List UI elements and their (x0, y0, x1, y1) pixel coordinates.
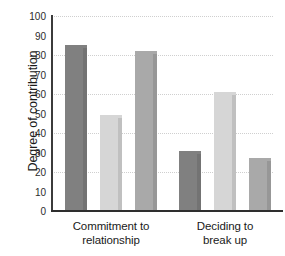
bar (214, 92, 236, 211)
bar (100, 115, 122, 211)
bar-shadow-edge (232, 95, 236, 211)
y-tick-label: 60 (16, 89, 46, 100)
bar-shadow-edge (267, 161, 271, 211)
y-tick-label: 80 (16, 50, 46, 61)
y-tick-label: 30 (16, 147, 46, 158)
bar-chart-figure: Degree of contribution 10090807060504030… (0, 0, 285, 256)
y-axis-tick-labels: 1009080706050403020100 (12, 16, 46, 211)
y-tick-label: 100 (16, 11, 46, 22)
bar-shadow-edge (197, 154, 201, 211)
y-tick-label: 70 (16, 69, 46, 80)
bar-shadow-edge (153, 54, 157, 211)
bar (135, 51, 157, 211)
bar (65, 45, 87, 211)
y-tick-label: 90 (16, 30, 46, 41)
gridline (51, 16, 273, 18)
y-tick-label: 40 (16, 128, 46, 139)
category-label-line: Deciding to (197, 220, 253, 232)
plot-area (51, 16, 273, 211)
bar-shadow-edge (83, 48, 87, 211)
bar (249, 158, 271, 211)
y-tick-label: 50 (16, 108, 46, 119)
y-axis-line (51, 15, 53, 212)
category-label-line: Commitment to (73, 220, 150, 232)
y-tick-label: 10 (16, 186, 46, 197)
y-tick-label: 20 (16, 167, 46, 178)
x-axis-line (51, 210, 283, 212)
bar (179, 151, 201, 211)
bar-shadow-edge (118, 118, 122, 211)
category-label-line: break up (155, 233, 285, 247)
x-axis-category-label: Deciding tobreak up (155, 219, 285, 247)
y-tick-label: 0 (16, 206, 46, 217)
